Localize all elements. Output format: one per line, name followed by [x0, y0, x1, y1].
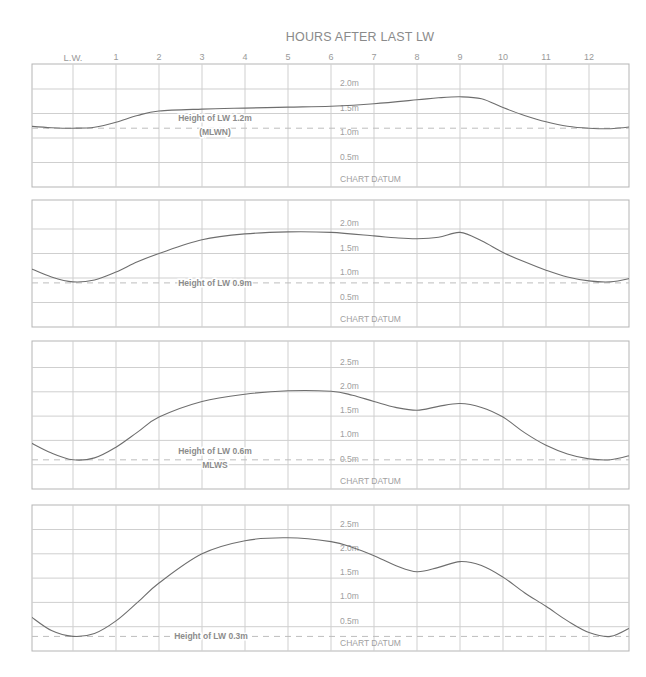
y-tick-label: 2.0m: [340, 78, 359, 88]
y-tick-label: 0.5m: [340, 152, 359, 162]
lw-height-label: Height of LW 0.9m: [178, 278, 252, 288]
tidal-curve-figure: HOURS AFTER LAST LW L.W.123456789101112 …: [0, 0, 646, 677]
tide-panel-lw-0-9: 2.0m1.5m1.0m0.5mCHART DATUMHeight of LW …: [30, 200, 632, 327]
lw-sublabel: MLWS: [202, 460, 228, 470]
y-tick-label: 2.0m: [340, 218, 359, 228]
lw-height-label: Height of LW 0.3m: [174, 631, 248, 641]
lw-sublabel: (MLWN): [199, 127, 231, 137]
y-tick-label: 1.5m: [340, 103, 359, 113]
y-tick-label: 1.5m: [340, 567, 359, 577]
chart-datum-label: CHART DATUM: [340, 476, 401, 486]
y-tick-label: 1.0m: [340, 429, 359, 439]
y-tick-label: 1.0m: [340, 267, 359, 277]
y-tick-label: 1.0m: [340, 591, 359, 601]
y-tick-label: 0.5m: [340, 292, 359, 302]
tide-panel-lw-1-2: 2.0m1.5m1.0m0.5mCHART DATUMHeight of LW …: [30, 64, 632, 187]
y-tick-label: 1.5m: [340, 243, 359, 253]
y-tick-label: 0.5m: [340, 454, 359, 464]
y-tick-label: 2.0m: [340, 381, 359, 391]
y-tick-label: 1.5m: [340, 405, 359, 415]
chart-datum-label: CHART DATUM: [340, 314, 401, 324]
tide-panel-lw-0-3: 2.5m2.0m1.5m1.0m0.5mCHART DATUMHeight of…: [30, 505, 632, 651]
y-tick-label: 2.5m: [340, 519, 359, 529]
tidal-charts-svg: 2.0m1.5m1.0m0.5mCHART DATUMHeight of LW …: [0, 0, 646, 677]
lw-height-label: Height of LW 0.6m: [178, 446, 252, 456]
chart-datum-label: CHART DATUM: [340, 638, 401, 648]
tide-panel-lw-0-6: 2.5m2.0m1.5m1.0m0.5mCHART DATUMHeight of…: [30, 341, 632, 489]
chart-datum-label: CHART DATUM: [340, 174, 401, 184]
y-tick-label: 0.5m: [340, 616, 359, 626]
lw-height-label: Height of LW 1.2m: [178, 113, 252, 123]
y-tick-label: 2.5m: [340, 357, 359, 367]
